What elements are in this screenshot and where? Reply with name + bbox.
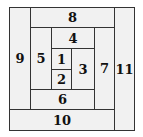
region-2: 2 bbox=[51, 69, 72, 90]
region-3: 3 bbox=[71, 48, 95, 90]
region-6: 6 bbox=[30, 89, 95, 110]
region-1: 1 bbox=[51, 48, 72, 70]
region-4: 4 bbox=[51, 27, 95, 49]
region-8: 8 bbox=[30, 7, 115, 28]
region-5: 5 bbox=[30, 27, 52, 90]
region-7: 7 bbox=[94, 27, 115, 110]
region-10: 10 bbox=[9, 109, 115, 131]
region-9: 9 bbox=[9, 7, 31, 110]
region-11: 11 bbox=[114, 7, 135, 131]
